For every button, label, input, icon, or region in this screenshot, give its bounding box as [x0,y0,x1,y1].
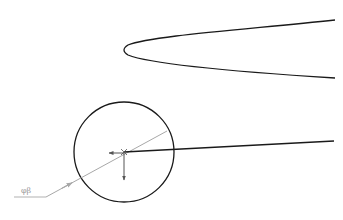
parabola-curve [124,20,335,78]
angle-label: φβ [21,186,32,195]
ray-line [124,141,334,152]
diagram-canvas: φβ [0,0,343,220]
gray-line-arrow-icon [62,183,72,189]
